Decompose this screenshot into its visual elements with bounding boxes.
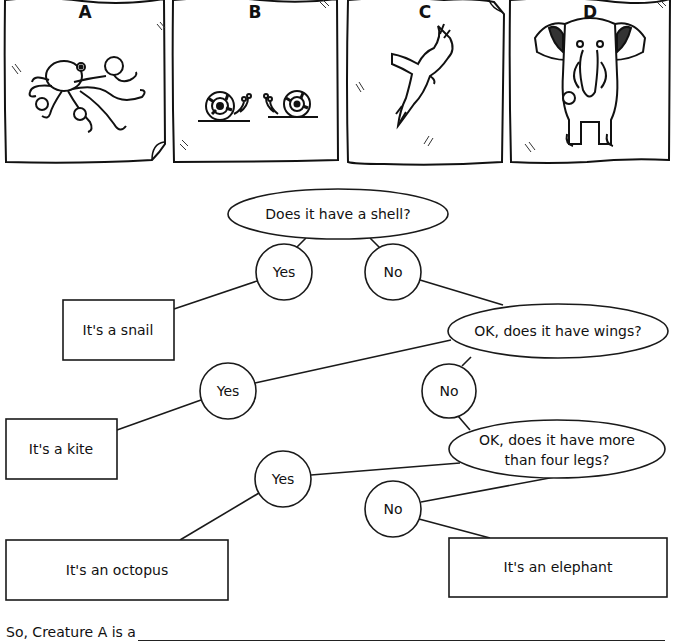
no-node-shell: No xyxy=(365,244,421,300)
no-node-wings: No xyxy=(422,364,476,418)
connector xyxy=(296,238,306,248)
yes-node-legs: Yes xyxy=(255,451,311,507)
connector xyxy=(421,477,555,502)
yes-label: Yes xyxy=(271,471,295,487)
question-shell-node: Does it have a shell? xyxy=(228,189,448,239)
connector xyxy=(419,519,490,538)
question-wings-text: OK, does it have wings? xyxy=(474,323,641,339)
connector xyxy=(370,238,380,248)
answer-prompt: So, Creature A is a xyxy=(6,624,136,640)
connector xyxy=(462,357,471,366)
connector xyxy=(180,493,259,540)
result-kite-text: It's a kite xyxy=(29,441,93,457)
question-legs-text-line1: OK, does it have more xyxy=(479,432,635,448)
connector xyxy=(311,463,460,475)
result-snail-text: It's a snail xyxy=(83,322,154,338)
decision-tree: Does it have a shell? Yes No It's a snai… xyxy=(0,0,674,644)
yes-label: Yes xyxy=(272,264,296,280)
yes-node-wings: Yes xyxy=(200,363,256,419)
no-label: No xyxy=(383,501,402,517)
yes-label: Yes xyxy=(216,383,240,399)
result-octopus-box: It's an octopus xyxy=(6,540,228,600)
connector xyxy=(255,340,451,383)
connector xyxy=(174,281,257,309)
no-label: No xyxy=(383,264,402,280)
result-snail-box: It's a snail xyxy=(63,300,174,360)
connector xyxy=(117,400,201,430)
no-label: No xyxy=(439,383,458,399)
connector xyxy=(458,416,470,430)
connector xyxy=(420,280,503,305)
question-wings-node: OK, does it have wings? xyxy=(448,304,668,358)
question-legs-node: OK, does it have more than four legs? xyxy=(449,420,665,478)
question-shell-text: Does it have a shell? xyxy=(265,206,410,222)
answer-blank-line[interactable] xyxy=(138,640,665,641)
result-octopus-text: It's an octopus xyxy=(66,562,168,578)
yes-node-shell: Yes xyxy=(256,244,312,300)
no-node-legs: No xyxy=(365,481,421,537)
result-kite-box: It's a kite xyxy=(6,419,117,479)
result-elephant-text: It's an elephant xyxy=(504,559,613,575)
question-legs-text-line2: than four legs? xyxy=(505,452,610,468)
result-elephant-box: It's an elephant xyxy=(449,538,667,597)
